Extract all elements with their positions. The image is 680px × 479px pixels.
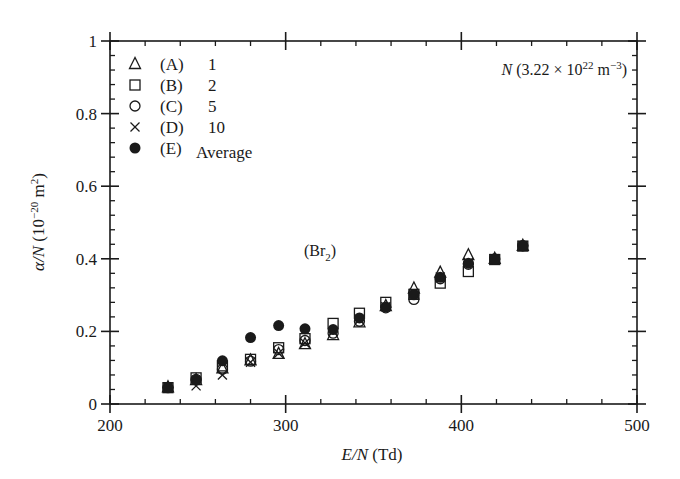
- filled-circle-point: [191, 375, 202, 386]
- legend-id: (D): [160, 118, 184, 137]
- filled-circle-point: [463, 258, 474, 269]
- filled-circle-point: [517, 240, 528, 251]
- legend-value: 5: [208, 97, 217, 116]
- filled-circle-point: [273, 320, 284, 331]
- y-tick-label: 0.2: [76, 322, 97, 341]
- triangle-icon: [130, 58, 141, 69]
- filled-circle-point: [299, 323, 310, 334]
- legend-value: 1: [208, 55, 217, 74]
- plot-frame: [110, 41, 637, 404]
- filled-circle-point: [435, 272, 446, 283]
- filled-circle-point: [162, 382, 173, 393]
- legend-value: 2: [208, 76, 217, 95]
- ionization-coefficient-chart: 20030040050000.20.40.60.81 (A)1(B)2(C)5(…: [0, 0, 680, 479]
- x-axis-label: E/N (Td): [341, 445, 403, 464]
- y-tick-label: 0.4: [76, 250, 98, 269]
- legend-id: (C): [160, 97, 183, 116]
- filled-circle-point: [245, 332, 256, 343]
- legend-item: (E)Average: [130, 139, 253, 162]
- filled-circle-icon: [130, 143, 141, 154]
- cross-icon: [131, 123, 140, 132]
- legend-id: (E): [160, 139, 182, 158]
- legend-item: (A)1: [130, 55, 217, 74]
- filled-circle-point: [328, 324, 339, 335]
- filled-circle-point: [380, 302, 391, 313]
- gas-annotation: (Br2): [304, 242, 336, 263]
- density-annotation: N (3.22 × 1022 m−3): [500, 59, 627, 79]
- circle-icon: [130, 101, 140, 111]
- y-tick-label: 0.8: [76, 105, 97, 124]
- x-tick-label: 200: [97, 416, 123, 435]
- square-icon: [130, 80, 140, 90]
- x-tick-label: 400: [449, 416, 475, 435]
- legend-id: (B): [160, 76, 183, 95]
- legend-item: (C)5: [130, 97, 217, 116]
- y-tick-label: 1: [89, 32, 98, 51]
- legend-value: 10: [208, 118, 225, 137]
- cross-point: [218, 370, 227, 379]
- filled-circle-point: [354, 312, 365, 323]
- x-tick-label: 500: [624, 416, 650, 435]
- filled-circle-point: [408, 289, 419, 300]
- x-tick-label: 300: [273, 416, 299, 435]
- axis-ticks: [101, 32, 646, 413]
- legend-item: (D)10: [131, 118, 226, 137]
- y-tick-label: 0: [89, 395, 98, 414]
- legend: (A)1(B)2(C)5(D)10(E)Average: [130, 55, 253, 162]
- filled-circle-point: [217, 355, 228, 366]
- filled-circle-point: [489, 254, 500, 265]
- y-tick-label: 0.6: [76, 177, 97, 196]
- legend-value: Average: [196, 143, 252, 162]
- legend-id: (A): [160, 55, 184, 74]
- plot-axes: [110, 41, 637, 404]
- data-points: [162, 239, 528, 393]
- y-axis-label: α/N (10−20 m2): [28, 173, 48, 271]
- legend-item: (B)2: [130, 76, 217, 95]
